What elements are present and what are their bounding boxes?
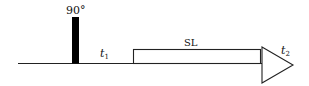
pulse-bar-90 xyxy=(72,17,79,64)
delay-t1-subscript: 1 xyxy=(104,53,108,61)
delay-t2-subscript: 2 xyxy=(285,50,289,58)
pulse-sequence-diagram xyxy=(0,0,309,86)
spin-lock-block xyxy=(134,50,261,64)
delay-t2-label: t2 xyxy=(281,45,290,58)
pulse-label: 90° xyxy=(66,5,86,16)
delay-t1-label: t1 xyxy=(100,48,109,61)
spin-lock-label: SL xyxy=(184,38,198,48)
